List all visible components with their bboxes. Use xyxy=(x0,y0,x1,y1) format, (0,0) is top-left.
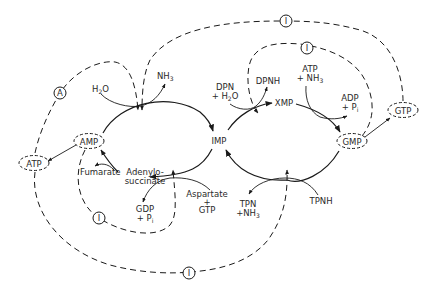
regulation-gtp-inhibits-amp-deaminase xyxy=(142,21,403,110)
inhibitor-badge-top: I xyxy=(280,15,292,27)
inhibitor-badge-gmp: I xyxy=(301,42,313,54)
arc-h2o-to-nh3 xyxy=(101,84,165,107)
purine-interconversion-diagram: I I A I I AMP ATP GMP GTP IMP XMP H2O NH… xyxy=(0,0,437,292)
node-xmp: XMP xyxy=(275,98,293,108)
arrow-amp-to-atp xyxy=(48,145,76,161)
svg-text:+ Pi: + Pi xyxy=(342,102,359,113)
node-atp: ATP xyxy=(19,156,49,171)
label-aspartate-gtp: Aspartate + GTP xyxy=(186,189,227,215)
label-tpn-nh3: TPN +NH3 xyxy=(236,199,260,219)
arc-amp-to-imp xyxy=(103,102,213,133)
arc-xmp-to-gmp xyxy=(296,104,340,132)
svg-text:succinate: succinate xyxy=(125,176,166,186)
label-gdp-pi: GDP + Pi xyxy=(136,204,154,224)
svg-text:I: I xyxy=(306,43,309,53)
arc-gmp-to-imp xyxy=(226,150,339,181)
svg-text:A: A xyxy=(57,88,63,98)
svg-text:+ Pi: + Pi xyxy=(137,213,154,224)
label-dpnh: DPNH xyxy=(256,76,280,86)
inhibitor-badge-amp: I xyxy=(93,212,105,224)
inhibitor-badge-bottom: I xyxy=(183,267,195,279)
node-amp: AMP xyxy=(74,134,104,149)
label-adp-pi: ADP + Pi xyxy=(341,93,359,113)
label-h2o: H2O xyxy=(92,84,109,95)
svg-text:GTP: GTP xyxy=(199,205,216,215)
svg-text:I: I xyxy=(98,213,101,223)
svg-text:I: I xyxy=(188,268,191,278)
node-imp: IMP xyxy=(212,136,227,146)
label-dpn-h2o: DPN + H2O xyxy=(212,82,239,102)
node-gtp: GTP xyxy=(388,103,418,118)
svg-text:AMP: AMP xyxy=(80,137,98,147)
svg-text:GTP: GTP xyxy=(395,106,412,116)
label-atp-nh3: ATP + NH3 xyxy=(297,64,324,84)
label-tpnh: TPNH xyxy=(308,196,332,206)
node-adenylosuccinate: Adenylo- succinate xyxy=(125,167,166,186)
activator-badge-atp: A xyxy=(54,87,66,99)
regulation-amp-inhibits-adenylosuccinate-synthetase xyxy=(78,150,175,233)
svg-text:GMP: GMP xyxy=(342,137,361,147)
svg-text:+NH3: +NH3 xyxy=(236,208,260,219)
svg-text:ATP: ATP xyxy=(26,159,41,169)
arrow-gmp-to-gtp xyxy=(365,118,390,137)
svg-text:+ H2O: + H2O xyxy=(212,91,239,102)
node-gmp: GMP xyxy=(337,134,367,149)
svg-text:I: I xyxy=(285,16,288,26)
label-nh3: NH3 xyxy=(157,71,174,82)
svg-text:+ NH3: + NH3 xyxy=(297,73,324,84)
label-fumarate: Fumarate xyxy=(80,167,121,177)
